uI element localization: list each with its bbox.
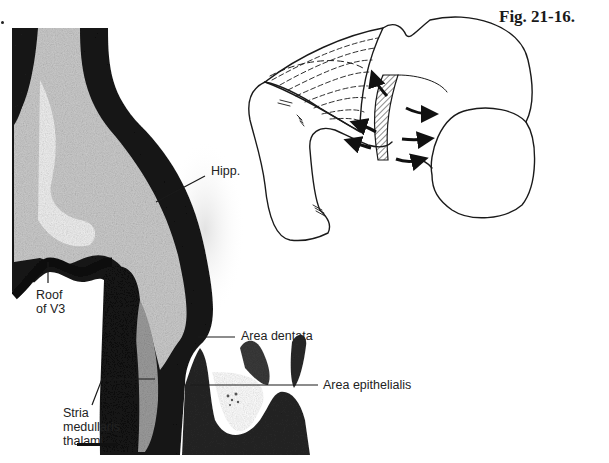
arrow-right-1 bbox=[406, 108, 430, 114]
label-area-dentata: Area dentata bbox=[241, 329, 313, 344]
arch-ticks bbox=[278, 100, 325, 216]
label-stria-line2: medullaris bbox=[63, 420, 120, 435]
label-stria-line3: thalami bbox=[63, 434, 103, 449]
arch-inner-edge bbox=[265, 82, 362, 132]
fan-hatch bbox=[272, 38, 378, 122]
upper-sulcus-curve bbox=[398, 75, 447, 92]
hippocampal-arch bbox=[249, 82, 392, 241]
lower-lobe-outline bbox=[431, 108, 534, 218]
hemisphere-outline bbox=[383, 17, 532, 122]
label-stria-line1: Stria bbox=[63, 406, 89, 421]
label-roof-v3-line2: of V3 bbox=[36, 302, 65, 317]
label-roof-v3-line1: Roof bbox=[36, 288, 62, 303]
hemisphere-diagram bbox=[240, 0, 609, 250]
label-hipp: Hipp. bbox=[211, 164, 240, 179]
scale-bar bbox=[77, 443, 117, 446]
arrow-right-3 bbox=[396, 159, 420, 161]
label-area-epithelialis: Area epithelialis bbox=[323, 378, 411, 393]
fan-region-outline bbox=[265, 28, 383, 132]
choroid-strip bbox=[374, 75, 398, 160]
arrow-right-2 bbox=[402, 139, 426, 140]
